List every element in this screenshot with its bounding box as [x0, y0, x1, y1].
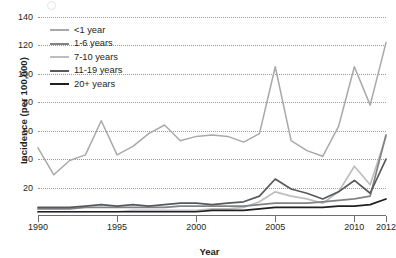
- x-tick-label: 2010: [344, 223, 364, 232]
- legend-label: 20+ years: [74, 80, 115, 89]
- legend-label: 7-10 years: [74, 53, 118, 62]
- scan-artifact-icon: [47, 1, 56, 10]
- legend-item[interactable]: 20+ years: [50, 78, 122, 91]
- legend-swatch-icon: [50, 56, 69, 58]
- x-tick-label: 1990: [28, 223, 48, 232]
- legend-item[interactable]: <1 year: [50, 24, 122, 37]
- x-axis-line: [38, 215, 386, 216]
- legend-swatch-icon: [50, 29, 69, 31]
- x-tick-label: 2000: [186, 223, 206, 232]
- x-axis-title: Year: [0, 246, 393, 257]
- y-tick-label: 80: [23, 98, 33, 107]
- legend-swatch-icon: [50, 83, 69, 85]
- y-tick-label: 120: [18, 41, 33, 50]
- legend-item[interactable]: 11-19 years: [50, 65, 122, 78]
- y-tick-label: 60: [23, 126, 33, 135]
- legend-label: <1 year: [74, 26, 105, 35]
- x-tick-label: 1995: [107, 223, 127, 232]
- legend-swatch-icon: [50, 43, 69, 45]
- y-tick-label: 40: [23, 155, 33, 164]
- legend-label: 1-6 years: [74, 39, 113, 48]
- legend-swatch-icon: [50, 70, 69, 72]
- x-tick-label: 2012: [376, 223, 396, 232]
- legend-item[interactable]: 1-6 years: [50, 38, 122, 51]
- legend-label: 11-19 years: [74, 66, 122, 75]
- x-tick-label: 2005: [265, 223, 285, 232]
- legend-item[interactable]: 7-10 years: [50, 51, 122, 64]
- y-tick-label: 100: [18, 69, 33, 78]
- legend: <1 year1-6 years7-10 years11-19 years20+…: [50, 24, 122, 91]
- y-tick-label: 140: [18, 13, 33, 22]
- y-axis-title: Incidence (per 100,000): [18, 26, 29, 196]
- y-tick-label: 20: [23, 183, 33, 192]
